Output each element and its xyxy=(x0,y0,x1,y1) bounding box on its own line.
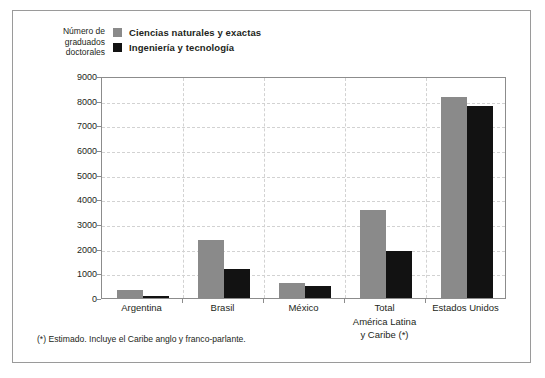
y-axis-tick xyxy=(97,102,101,103)
legend-item-ciencias-naturales-y-exactas: Ciencias naturales y exactas xyxy=(113,25,261,40)
plot-frame xyxy=(101,77,506,299)
x-axis-category-label: Total América Latina y Caribe (*) xyxy=(344,301,425,342)
bar xyxy=(224,269,250,298)
bar xyxy=(386,251,412,298)
x-axis-category-label: Argentina xyxy=(101,301,182,315)
y-axis-tick xyxy=(97,274,101,275)
bar xyxy=(467,106,493,298)
legend-label: Ciencias naturales y exactas xyxy=(129,27,261,38)
bar-group xyxy=(264,78,345,298)
y-axis-tick xyxy=(97,77,101,78)
bar xyxy=(360,210,386,298)
bar-group xyxy=(345,78,426,298)
bar-group xyxy=(183,78,264,298)
legend-swatch-icon xyxy=(113,43,122,52)
bar xyxy=(441,97,467,298)
y-axis-tick-label: 5000 xyxy=(37,171,97,181)
bar xyxy=(117,290,143,298)
bar-group xyxy=(426,78,507,298)
bar xyxy=(198,240,224,298)
bar xyxy=(279,283,305,298)
y-axis-tick xyxy=(97,151,101,152)
plot-area: 0100020003000400050006000700080009000 Ar… xyxy=(101,77,506,299)
y-axis-tick xyxy=(97,200,101,201)
y-axis-tick-label: 6000 xyxy=(37,146,97,156)
chart-legend: Ciencias naturales y exactas Ingeniería … xyxy=(113,25,261,55)
y-axis-tick-label: 2000 xyxy=(37,245,97,255)
bar xyxy=(305,286,331,298)
y-axis-tick-label: 3000 xyxy=(37,220,97,230)
y-axis-tick-label: 4000 xyxy=(37,195,97,205)
y-axis-tick-label: 1000 xyxy=(37,269,97,279)
y-axis-tick-label: 0 xyxy=(37,294,97,304)
legend-label: Ingeniería y tecnología xyxy=(129,42,234,53)
y-axis-tick xyxy=(97,250,101,251)
legend-swatch-icon xyxy=(113,28,122,37)
x-axis-category-label: Estados Unidos xyxy=(425,301,506,315)
bar-group xyxy=(102,78,183,298)
y-axis-tick xyxy=(97,299,101,300)
y-axis-tick-label: 7000 xyxy=(37,121,97,131)
legend-item-ingenieria-y-tecnologia: Ingeniería y tecnología xyxy=(113,40,261,55)
y-axis-title: Número de graduados doctorales xyxy=(31,26,105,58)
chart-figure: Número de graduados doctorales Ciencias … xyxy=(12,10,531,363)
y-axis-tick xyxy=(97,176,101,177)
footnote: (*) Estimado. Incluye el Caribe anglo y … xyxy=(37,334,246,344)
y-axis-tick-label: 9000 xyxy=(37,72,97,82)
y-axis-tick-label: 8000 xyxy=(37,97,97,107)
y-axis-tick xyxy=(97,126,101,127)
x-axis-category-label: Brasil xyxy=(182,301,263,315)
x-axis-category-label: México xyxy=(263,301,344,315)
bar xyxy=(143,296,169,298)
y-axis-tick xyxy=(97,225,101,226)
